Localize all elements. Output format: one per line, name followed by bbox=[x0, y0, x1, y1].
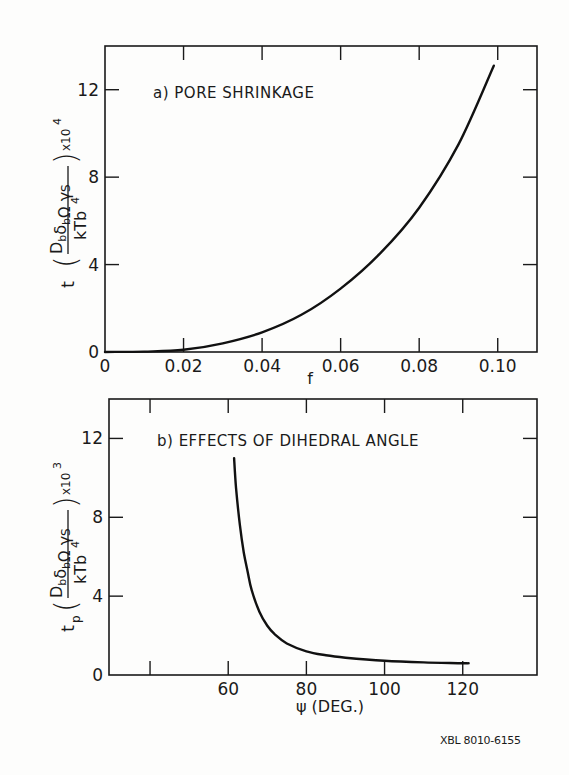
data-curve bbox=[105, 66, 494, 352]
y-tick-label: 0 bbox=[88, 342, 99, 362]
svg-text:DbδbΩ γS: DbδbΩ γS bbox=[47, 528, 74, 598]
data-curve bbox=[234, 458, 469, 663]
svg-text:t: t bbox=[57, 625, 78, 632]
x-tick-label: 0.02 bbox=[165, 356, 203, 376]
x-tick-label: 0 bbox=[100, 356, 111, 376]
x-tick-label: 60 bbox=[217, 679, 239, 699]
x-tick-label: 100 bbox=[368, 679, 400, 699]
y-tick-label: 4 bbox=[92, 586, 103, 606]
x-tick-label: 80 bbox=[296, 679, 318, 699]
figure-canvas: 00.020.040.060.080.1004812a) PORE SHRINK… bbox=[0, 0, 569, 775]
x-tick-label: 0.06 bbox=[322, 356, 360, 376]
chart-title: b) EFFECTS OF DIHEDRAL ANGLE bbox=[157, 432, 419, 450]
y-tick-label: 8 bbox=[88, 167, 99, 187]
chart-title: a) PORE SHRINKAGE bbox=[153, 84, 314, 102]
svg-text:4: 4 bbox=[51, 118, 64, 125]
y-axis-label: t(DbδbΩ γSkTb4)x104 bbox=[47, 118, 90, 288]
svg-text:x10: x10 bbox=[59, 473, 73, 495]
svg-text:kTb: kTb bbox=[71, 211, 90, 240]
y-tick-label: 4 bbox=[88, 255, 99, 275]
svg-text:DbδbΩ γS: DbδbΩ γS bbox=[47, 184, 74, 254]
y-tick-label: 8 bbox=[92, 507, 103, 527]
svg-text:p: p bbox=[69, 615, 83, 623]
svg-text:4: 4 bbox=[69, 541, 82, 548]
svg-text:): ) bbox=[48, 152, 83, 164]
y-tick-label: 12 bbox=[77, 80, 99, 100]
svg-text:4: 4 bbox=[69, 197, 82, 204]
svg-text:3: 3 bbox=[51, 462, 64, 469]
y-tick-label: 0 bbox=[92, 665, 103, 685]
y-axis-label: tp(DbδbΩ γSkTb4)x103 bbox=[47, 462, 90, 632]
svg-text:): ) bbox=[48, 496, 83, 508]
x-axis-label: ψ (DEG.) bbox=[296, 697, 364, 716]
y-tick-label: 12 bbox=[81, 428, 103, 448]
chart-panel-b: 608010012004812b) EFFECTS OF DIHEDRAL AN… bbox=[47, 399, 537, 716]
x-tick-label: 0.04 bbox=[243, 356, 281, 376]
x-axis-label: f bbox=[307, 369, 313, 388]
x-tick-label: 0.10 bbox=[479, 356, 517, 376]
figure-id-label: XBL 8010-6155 bbox=[440, 734, 521, 747]
svg-text:t: t bbox=[57, 281, 78, 288]
svg-text:kTb: kTb bbox=[71, 555, 90, 584]
x-tick-label: 120 bbox=[447, 679, 479, 699]
svg-text:(: ( bbox=[48, 600, 83, 612]
chart-panel-a: 00.020.040.060.080.1004812a) PORE SHRINK… bbox=[47, 46, 537, 388]
svg-text:x10: x10 bbox=[59, 129, 73, 151]
svg-text:(: ( bbox=[48, 256, 83, 268]
x-tick-label: 0.08 bbox=[400, 356, 438, 376]
